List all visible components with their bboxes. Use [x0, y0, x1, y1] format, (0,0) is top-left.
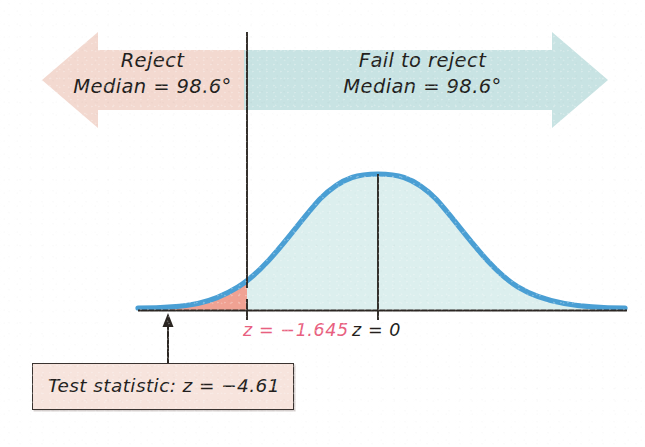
distribution-body-fill: [138, 175, 625, 310]
reject-region-label: Reject Median = 98.6°: [60, 48, 245, 99]
test-statistic-label: Test statistic: z = −4.61: [33, 375, 295, 396]
figure-canvas: Reject Median = 98.6° Fail to reject Med…: [0, 0, 645, 447]
test-statistic-pointer: [163, 313, 174, 363]
fail-to-reject-region-label: Fail to reject Median = 98.6°: [300, 48, 545, 99]
critical-value-label: z = −1.645: [243, 320, 349, 340]
test-statistic-callout-box: Test statistic: z = −4.61: [32, 363, 294, 410]
center-value-label: z = 0: [352, 320, 401, 340]
